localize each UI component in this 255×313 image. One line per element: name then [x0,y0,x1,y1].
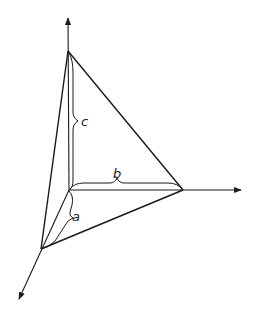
tetrahedron-diagram: c b a [0,0,255,313]
x-axis [19,190,69,299]
z-axis [68,18,69,190]
label-a: a [72,209,80,224]
label-c: c [81,114,88,129]
label-b: b [113,166,121,181]
edge-top-bottomleft [41,51,68,249]
edge-right-bottomleft [41,190,183,249]
brace-c [69,53,78,190]
brace-b [70,178,183,190]
